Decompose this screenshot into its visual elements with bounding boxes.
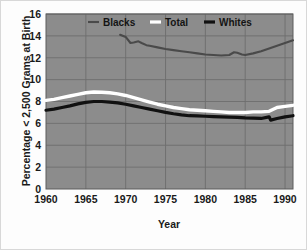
x-tick-label: 1960 — [34, 193, 58, 205]
x-tick-label: 1965 — [74, 193, 98, 205]
x-tick-label: 1980 — [194, 193, 218, 205]
x-axis-tick-labels: 1960196519701975198019851990 — [34, 193, 297, 205]
chart-figure: 0246810121416 19601965197019751980198519… — [0, 0, 307, 250]
y-tick-label: 8 — [35, 95, 41, 107]
legend-label-whites: Whites — [219, 17, 252, 28]
line-chart: 0246810121416 19601965197019751980198519… — [0, 0, 307, 250]
y-tick-label: 2 — [35, 161, 41, 173]
x-tick-label: 1970 — [114, 193, 138, 205]
y-axis-title: Percentage < 2,500 Grams at Birth — [20, 16, 32, 187]
y-tick-label: 4 — [35, 139, 41, 151]
legend-label-total: Total — [165, 17, 188, 28]
x-tick-label: 1990 — [273, 193, 297, 205]
legend-label-blacks: Blacks — [103, 17, 136, 28]
x-tick-label: 1975 — [154, 193, 178, 205]
chart-legend: BlacksTotalWhites — [88, 17, 252, 28]
y-tick-label: 6 — [35, 117, 41, 129]
x-tick-label: 1985 — [234, 193, 258, 205]
x-axis-title: Year — [158, 218, 180, 230]
